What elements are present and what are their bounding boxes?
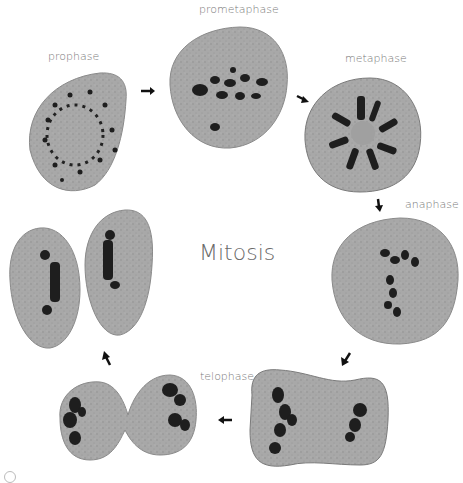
corner-mark-icon (4, 471, 16, 483)
cell-prophase (29, 73, 126, 191)
cell-prometaphase (170, 27, 287, 148)
arrow-down-left-icon (341, 353, 350, 366)
cell-anaphase (332, 218, 458, 344)
cell-late-anaphase (250, 370, 388, 467)
arrow-up-left-icon (102, 351, 110, 365)
arrow-down-right-icon (297, 96, 309, 103)
cell-metaphase (305, 78, 421, 192)
arrow-left-icon (218, 416, 232, 424)
arrow-down-icon (375, 199, 383, 212)
cell-cytokinesis (10, 210, 153, 348)
cell-telophase (60, 375, 196, 460)
arrow-right-icon (141, 87, 155, 95)
